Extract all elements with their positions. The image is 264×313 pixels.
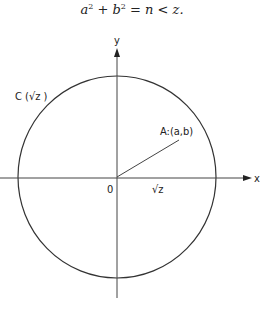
point-a-label: A:(a,b) xyxy=(160,125,193,138)
radius-label: √z xyxy=(152,183,164,196)
origin-label: 0 xyxy=(107,183,113,196)
circle-label: C (√z ) xyxy=(15,90,48,103)
circle-diagram: y x 0 C (√z ) A:(a,b) √z xyxy=(0,0,264,313)
x-axis-arrow-icon xyxy=(243,175,252,181)
radius-line-oa xyxy=(117,140,179,177)
x-axis-label: x xyxy=(254,172,260,185)
y-axis-arrow-icon xyxy=(114,48,120,57)
y-axis-label: y xyxy=(114,34,120,47)
